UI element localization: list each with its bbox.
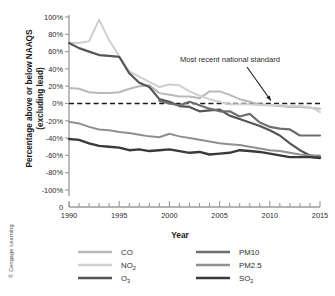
line-chart-plot: 100%80%60%40%20%0%-20%-40%-60%-80%-100%0… <box>0 0 335 296</box>
y-tick-label: -40% <box>46 134 64 143</box>
chart-legend: CONO2O3PM10PM2.5SO2 <box>78 248 262 284</box>
y-tick-label: 60% <box>48 47 63 56</box>
y-tick-label: -60% <box>46 151 64 160</box>
y-tick-label: -80% <box>46 168 64 177</box>
x-tick-label: 1990 <box>61 211 77 220</box>
legend-label: CO <box>121 248 133 257</box>
legend-item-pm25[interactable]: PM2.5 <box>196 261 262 270</box>
x-tick-label: 2005 <box>211 211 227 220</box>
y-tick-label: 20% <box>48 82 63 91</box>
legend-label: SO2 <box>239 274 253 284</box>
legend-item-pm10[interactable]: PM10 <box>196 248 260 257</box>
legend-label: PM10 <box>239 248 260 257</box>
legend-label-subscript: 2 <box>250 278 253 284</box>
x-tick-label: 1995 <box>111 211 127 220</box>
y-tick-label: 40% <box>48 65 63 74</box>
y-tick-label: -100% <box>42 186 64 195</box>
legend-item-o3[interactable]: O3 <box>78 274 130 284</box>
legend-label: NO2 <box>121 261 136 271</box>
x-tick-label: 2010 <box>262 211 278 220</box>
legend-label: PM2.5 <box>239 261 262 270</box>
y-tick-label: 0% <box>52 99 63 108</box>
x-tick-label: 2015 <box>312 211 328 220</box>
x-tick-label: 2000 <box>161 211 177 220</box>
legend-item-no2[interactable]: NO2 <box>78 261 136 271</box>
y-tick-label: -20% <box>46 117 64 126</box>
series-line-so2 <box>69 139 320 158</box>
legend-label: O3 <box>121 274 130 284</box>
chart-figure: Percentage above or below NAAQS (excludi… <box>0 0 335 296</box>
legend-label-subscript: 2 <box>133 265 136 271</box>
data-series-layer <box>69 20 320 158</box>
y-tick-label: 100% <box>44 13 63 22</box>
annotation-text: Most recent national standard <box>180 55 280 64</box>
y-tick-label: 80% <box>48 30 63 39</box>
legend-label-subscript: 3 <box>127 278 130 284</box>
annotation-arrow-shaft <box>247 67 271 101</box>
annotation-arrow-head <box>266 95 270 100</box>
axes-layer: 100%80%60%40%20%0%-20%-40%-60%-80%-100%0… <box>42 13 329 220</box>
legend-item-so2[interactable]: SO2 <box>196 274 253 284</box>
legend-item-co[interactable]: CO <box>78 248 133 257</box>
